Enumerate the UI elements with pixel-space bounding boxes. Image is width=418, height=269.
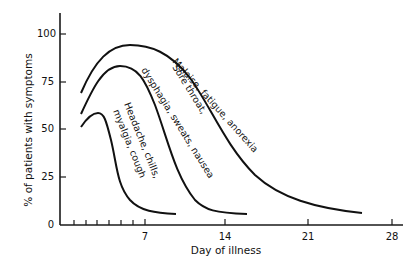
x-tick-21: 21 (302, 231, 315, 242)
x-major-ticks (145, 219, 392, 225)
y-tick-75: 75 (41, 76, 54, 87)
y-tick-labels: 0 25 50 75 100 (37, 28, 56, 230)
y-ticks (60, 34, 66, 177)
y-tick-0: 0 (48, 219, 54, 230)
y-tick-100: 100 (37, 28, 56, 39)
x-tick-28: 28 (386, 231, 399, 242)
x-tick-7: 7 (142, 231, 148, 242)
x-tick-14: 14 (219, 231, 232, 242)
y-tick-25: 25 (41, 171, 54, 182)
y-axis-label: % of patients with symptoms (22, 53, 34, 206)
x-axis-label: Day of illness (191, 244, 261, 256)
symptom-duration-chart: 0 25 50 75 100 7 14 21 28 Day of illness… (0, 0, 418, 269)
y-tick-50: 50 (41, 123, 54, 134)
x-tick-labels: 7 14 21 28 (142, 231, 399, 242)
